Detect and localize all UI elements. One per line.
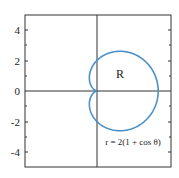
y-tick-label: -2 — [11, 116, 20, 128]
equation-label: r = 2(1 + cos θ) — [105, 137, 161, 147]
region-label: R — [116, 67, 124, 81]
y-tick-label: 0 — [15, 85, 21, 97]
y-tick-label: 2 — [15, 55, 21, 67]
y-tick-label: -4 — [11, 146, 21, 158]
y-tick-label: 4 — [15, 24, 21, 36]
polar-plot: 4 2 0 -2 -4 R r = 2(1 + cos θ) — [0, 0, 179, 178]
